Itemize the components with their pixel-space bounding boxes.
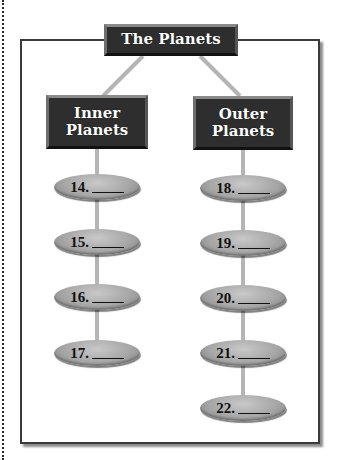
answer-blank[interactable] — [238, 402, 270, 414]
answer-oval-22[interactable]: 22. — [200, 395, 286, 421]
category-label-line-1: Inner — [66, 105, 129, 122]
item-number: 15. — [70, 234, 89, 251]
item-number: 16. — [70, 289, 89, 306]
answer-blank[interactable] — [238, 237, 270, 249]
connector-lines — [0, 0, 338, 460]
item-number: 14. — [70, 179, 89, 196]
answer-oval-16[interactable]: 16. — [54, 284, 140, 310]
item-number: 17. — [70, 345, 89, 362]
answer-oval-14[interactable]: 14. — [54, 174, 140, 200]
answer-blank[interactable] — [238, 292, 270, 304]
answer-oval-19[interactable]: 19. — [200, 230, 286, 256]
answer-blank[interactable] — [92, 291, 124, 303]
item-number: 18. — [216, 180, 235, 197]
answer-oval-21[interactable]: 21. — [200, 340, 286, 366]
item-number: 21. — [216, 345, 235, 362]
item-number: 19. — [216, 235, 235, 252]
answer-oval-15[interactable]: 15. — [54, 229, 140, 255]
item-number: 20. — [216, 290, 235, 307]
item-number: 22. — [216, 400, 235, 417]
answer-oval-20[interactable]: 20. — [200, 285, 286, 311]
answer-blank[interactable] — [238, 182, 270, 194]
answer-blank[interactable] — [238, 347, 270, 359]
category-box-outer-planets: Outer Planets — [193, 96, 293, 150]
category-box-inner-planets: Inner Planets — [46, 95, 148, 149]
category-label-line-2: Planets — [212, 123, 275, 140]
answer-blank[interactable] — [92, 236, 124, 248]
category-label-line-2: Planets — [66, 122, 129, 139]
title-label: The Planets — [121, 31, 220, 48]
answer-blank[interactable] — [92, 347, 124, 359]
title-box-the-planets: The Planets — [104, 24, 238, 56]
answer-blank[interactable] — [92, 181, 124, 193]
category-label-line-1: Outer — [212, 106, 275, 123]
answer-oval-17[interactable]: 17. — [54, 340, 140, 366]
answer-oval-18[interactable]: 18. — [200, 175, 286, 201]
